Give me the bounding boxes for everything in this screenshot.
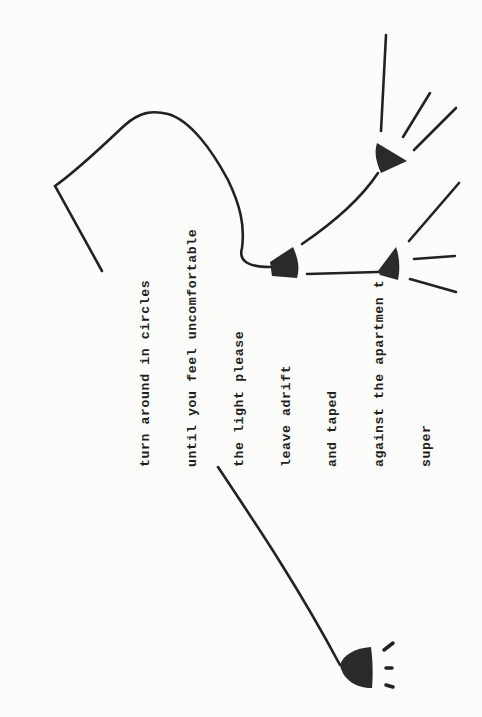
typed-poem: turn around in circles until you feel un… <box>107 229 466 467</box>
poem-line: the light please <box>232 229 248 467</box>
poem-line: until you feel uncomfortable <box>185 229 201 467</box>
line-top <box>381 35 386 131</box>
poem-line: turn around in circles <box>138 229 154 467</box>
poem-line: and taped <box>325 229 341 467</box>
poem-line: against the apartmen t <box>372 229 388 467</box>
poem-line: super <box>419 229 435 467</box>
poem-line: leave adrift <box>279 229 295 467</box>
ray-lines-upper <box>403 93 456 150</box>
ray-lines-bottom <box>384 643 393 687</box>
lamp-bottom-icon <box>340 647 373 688</box>
connector-bottom <box>218 467 340 665</box>
typewritten-page: turn around in circles until you feel un… <box>0 0 482 717</box>
lamp-upper-right-icon <box>376 143 407 173</box>
